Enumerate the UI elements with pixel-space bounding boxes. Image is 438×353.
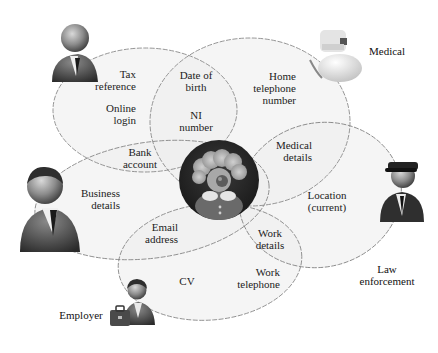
- label-line: Date of: [172, 69, 220, 81]
- label-line: Work: [250, 227, 290, 239]
- label-line: Bank: [110, 146, 170, 158]
- actor-label-law-enforcement: Law enforcement: [355, 263, 419, 287]
- label-line: Tax: [88, 68, 136, 80]
- label-line: NI: [172, 109, 220, 121]
- label-date-of-birth: Date of birth: [172, 69, 220, 93]
- label-cv: CV: [172, 275, 202, 287]
- label-line: login: [90, 114, 136, 126]
- actor-label-medical: Medical: [362, 45, 412, 57]
- label-line: Medical: [260, 139, 312, 151]
- label-line: details: [260, 151, 312, 163]
- label-line: Law: [355, 263, 419, 275]
- label-line: birth: [172, 81, 220, 93]
- label-business-details: Business details: [72, 187, 120, 211]
- label-line: Online: [90, 102, 136, 114]
- label-line: number: [172, 121, 220, 133]
- actor-label-employer: Employer: [58, 309, 104, 321]
- label-bank-account: Bank account: [110, 146, 170, 170]
- label-line: Work: [228, 266, 280, 278]
- label-tax-reference: Tax reference: [88, 68, 136, 92]
- label-line: Business: [72, 187, 120, 199]
- label-ni-number: NI number: [172, 109, 220, 133]
- label-work-telephone: Work telephone: [228, 266, 280, 290]
- label-line: Email: [140, 221, 178, 233]
- label-online-login: Online login: [90, 102, 136, 126]
- label-work-details: Work details: [250, 227, 290, 251]
- label-home-telephone-number: Home telephone number: [238, 70, 296, 106]
- clown-person-icon: [179, 140, 259, 220]
- label-line: telephone: [238, 82, 296, 94]
- label-line: Home: [238, 70, 296, 82]
- label-line: telephone: [228, 278, 280, 290]
- label-line: enforcement: [355, 275, 419, 287]
- label-line: details: [250, 239, 290, 251]
- label-line: Location: [300, 189, 354, 201]
- label-line: details: [72, 199, 120, 211]
- label-line: (current): [300, 201, 354, 213]
- medical-doctor-icon: [310, 30, 362, 82]
- label-email-address: Email address: [140, 221, 178, 245]
- label-line: reference: [88, 80, 136, 92]
- label-line: account: [110, 158, 170, 170]
- label-line: CV: [172, 275, 202, 287]
- label-location-current: Location (current): [300, 189, 354, 213]
- label-line: address: [140, 233, 178, 245]
- label-line: number: [238, 94, 296, 106]
- label-medical-details: Medical details: [260, 139, 312, 163]
